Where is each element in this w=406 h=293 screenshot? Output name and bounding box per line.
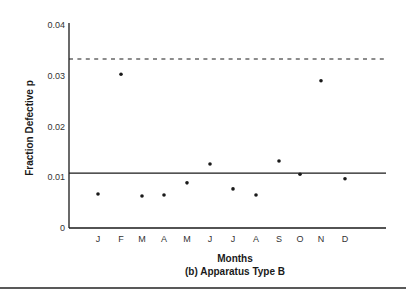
data-point	[343, 177, 347, 181]
y-tick-label: 0.04	[47, 20, 65, 30]
y-tick-label: 0.01	[47, 172, 65, 182]
chart-subtitle: (b) Apparatus Type B	[185, 266, 285, 277]
y-tick-label: 0	[60, 223, 65, 233]
data-point	[162, 193, 166, 197]
x-tick-label: A	[253, 234, 259, 244]
y-axis: 00.010.020.030.04	[47, 20, 386, 233]
y-tick-label: 0.03	[47, 71, 65, 81]
x-tick-label: A	[161, 234, 167, 244]
x-tick-label: D	[342, 234, 349, 244]
data-point	[140, 194, 144, 198]
y-tick-label: 0.02	[47, 122, 65, 132]
control-chart: 00.010.020.030.04 JFMAMJJASOND Fraction …	[0, 0, 406, 293]
x-tick-label: J	[231, 234, 236, 244]
data-point	[119, 72, 123, 76]
x-tick-label: J	[208, 234, 213, 244]
x-tick-label: N	[318, 234, 325, 244]
x-axis-month-labels: JFMAMJJASOND	[96, 234, 349, 244]
data-point	[185, 181, 189, 185]
x-tick-label: J	[96, 234, 101, 244]
data-point	[298, 172, 302, 176]
reference-lines	[69, 59, 386, 173]
data-point	[208, 162, 212, 166]
x-tick-label: M	[183, 234, 191, 244]
y-axis-label: Fraction Defective p	[24, 80, 35, 176]
data-point	[254, 193, 258, 197]
x-tick-label: S	[276, 234, 282, 244]
data-point	[231, 187, 235, 191]
data-points	[96, 72, 347, 197]
data-point	[96, 192, 100, 196]
x-tick-label: O	[296, 234, 303, 244]
data-point	[319, 79, 323, 83]
x-tick-label: F	[118, 234, 124, 244]
data-point	[277, 159, 281, 163]
x-tick-label: M	[138, 234, 146, 244]
x-axis-label: Months	[217, 253, 253, 264]
